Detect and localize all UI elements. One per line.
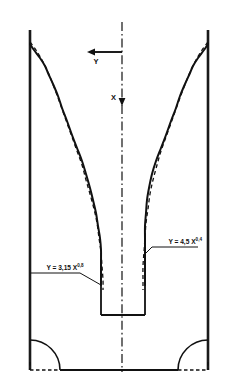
x-arrow-head-icon <box>119 98 126 106</box>
right-equation-annotation: Y = 4,5 X0,4 <box>143 235 215 256</box>
right-equation-exponent: 0,4 <box>196 237 203 242</box>
diagram-canvas: X Y Y = 3,15 X0,8 Y = 4,5 X0,4 <box>0 0 225 388</box>
left-equation-annotation: Y = 3,15 X0,8 <box>30 261 101 285</box>
fitted-curve-left <box>30 42 103 290</box>
measured-curve-right <box>145 44 208 285</box>
fitted-curve-right <box>143 42 208 290</box>
y-arrow-head-icon <box>87 48 95 55</box>
left-equation-base: Y = 3,15 X <box>46 264 77 272</box>
y-axis-label: Y <box>93 57 98 66</box>
x-axis-arrow-group: X <box>111 93 125 106</box>
measured-profile-curves <box>30 44 208 285</box>
left-fillet-arc <box>30 340 60 370</box>
right-equation-text: Y = 4,5 X0,4 <box>152 235 215 246</box>
scour-profile-diagram: X Y Y = 3,15 X0,8 Y = 4,5 X0,4 <box>0 0 225 388</box>
container-floor <box>30 340 208 370</box>
central-notch <box>101 285 145 315</box>
measured-curve-left <box>30 44 101 285</box>
x-axis-label: X <box>111 93 116 102</box>
container-walls <box>30 30 208 370</box>
left-equation-text: Y = 3,15 X0,8 <box>30 261 96 272</box>
y-axis-arrow-group: Y <box>87 48 122 66</box>
right-equation-base: Y = 4,5 X <box>168 238 196 246</box>
right-fillet-arc <box>178 340 208 370</box>
fitted-power-law-curves <box>30 42 208 290</box>
left-leader-pointer <box>80 273 101 285</box>
left-equation-exponent: 0,8 <box>77 263 84 268</box>
